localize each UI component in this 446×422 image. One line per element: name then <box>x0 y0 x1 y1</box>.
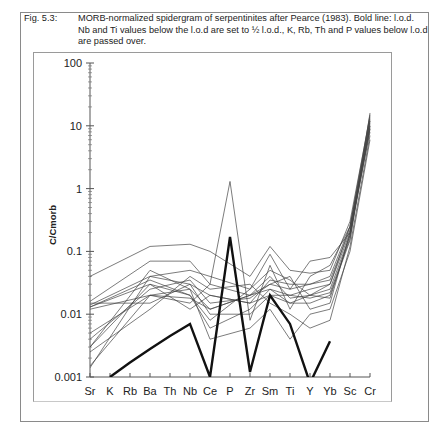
y-tick-label: 0.1 <box>67 245 82 257</box>
x-tick-label: Zr <box>245 385 256 397</box>
x-tick-label: Th <box>164 385 177 397</box>
sample-line <box>90 126 370 305</box>
x-tick-label: K <box>106 385 114 397</box>
data-lines <box>90 113 370 383</box>
x-tick-label: Cr <box>364 385 376 397</box>
x-tick-label: Rb <box>123 385 137 397</box>
x-tick-label: Ti <box>286 385 295 397</box>
sample-line <box>90 121 370 320</box>
sample-line <box>90 126 370 309</box>
x-tick-label: Sc <box>344 385 357 397</box>
sample-line <box>90 123 370 309</box>
x-tick-label: Sr <box>85 385 96 397</box>
sample-line <box>90 117 370 277</box>
y-tick-label: 100 <box>64 57 82 69</box>
sample-line <box>90 113 370 314</box>
y-tick-label: 1 <box>76 183 82 195</box>
x-tick-label: P <box>226 385 233 397</box>
y-tick-label: 0.001 <box>54 371 82 383</box>
y-tick-label: 10 <box>70 120 82 132</box>
x-tick-label: Ba <box>143 385 157 397</box>
x-tick-label: Sm <box>262 385 279 397</box>
x-tick-label: Nb <box>183 385 197 397</box>
sample-line <box>90 140 370 366</box>
x-tick-label: Ce <box>203 385 217 397</box>
x-tick-label: Y <box>306 385 314 397</box>
y-tick-label: 0.01 <box>61 308 82 320</box>
bold-lod-line <box>110 237 330 383</box>
x-tick-label: Yb <box>323 385 336 397</box>
sample-line <box>90 129 370 368</box>
y-axis-label: C/Cmorb <box>47 205 58 245</box>
